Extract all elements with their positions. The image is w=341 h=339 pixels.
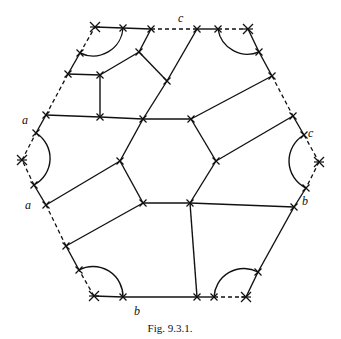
dashed-edge — [22, 160, 34, 185]
solid-edge — [191, 119, 216, 161]
solid-edge — [190, 203, 197, 297]
vertex-marker — [33, 130, 40, 137]
solid-edge — [190, 161, 216, 203]
solid-edge — [120, 161, 143, 203]
vertex-marker — [303, 185, 310, 192]
solid-edge — [248, 29, 259, 52]
label-c-right: c — [308, 126, 314, 140]
arc-top-right — [218, 29, 259, 54]
vertex-marker — [290, 113, 297, 120]
solid-edge — [36, 115, 46, 133]
corner-arcs — [34, 28, 306, 297]
corner-vertex-marker — [90, 22, 100, 32]
solid-edge — [46, 161, 120, 205]
arc-top-left — [80, 28, 123, 56]
vertex-marker — [164, 78, 171, 85]
dashed-edge — [46, 205, 66, 246]
vertex-marker — [301, 132, 308, 139]
vertex-marker — [269, 73, 276, 80]
corner-vertex-marker — [17, 155, 27, 165]
corner-vertex-marker — [243, 24, 253, 34]
vertex-marker — [31, 182, 38, 189]
label-a-upper: a — [22, 113, 28, 127]
solid-edge — [191, 76, 272, 119]
solid-edge — [100, 117, 143, 119]
solid-edge — [68, 53, 80, 74]
edge-labels: caacbb — [22, 11, 314, 318]
dashed-edge — [306, 162, 319, 188]
solid-edge — [66, 203, 143, 246]
arc-bottom-right — [214, 269, 258, 297]
dashed-edge — [80, 27, 95, 53]
solid-edge — [139, 52, 167, 81]
label-c-top: c — [178, 11, 184, 25]
solid-edge — [190, 203, 294, 207]
solid-edge — [216, 116, 293, 161]
solid-edge — [123, 28, 151, 29]
dashed-edge — [46, 74, 68, 115]
dashed-edge — [79, 270, 94, 296]
label-b-right: b — [302, 194, 308, 208]
vertex-marker — [63, 243, 70, 250]
vertex-marker — [136, 49, 143, 56]
vertex-marker — [255, 269, 262, 276]
label-a-lower: a — [25, 198, 31, 212]
solid-edge — [143, 81, 167, 119]
corner-vertex-marker — [89, 291, 99, 301]
dashed-edge — [22, 133, 36, 160]
solid-edge — [34, 185, 46, 205]
vertex-marker — [76, 267, 83, 274]
arc-left — [34, 133, 50, 185]
vertex-marker — [256, 49, 263, 56]
vertex-marker — [213, 158, 220, 165]
solid-edge — [139, 29, 151, 52]
solid-edge — [293, 116, 304, 135]
vertex-marker — [77, 50, 84, 57]
solid-edge — [246, 272, 258, 297]
solid-edge — [66, 246, 79, 270]
arc-right — [289, 135, 306, 188]
solid-edge — [259, 52, 272, 76]
solid-edge — [120, 119, 143, 161]
vertex-markers — [17, 22, 324, 302]
figure-caption: Fig. 9.3.1. — [148, 322, 193, 334]
graph-edges — [22, 27, 319, 297]
solid-edge — [167, 29, 197, 81]
corner-vertex-marker — [241, 292, 251, 302]
hexagon-tiling-diagram: caacbb Fig. 9.3.1. — [0, 0, 341, 339]
dashed-edge — [272, 76, 293, 116]
label-b-bottom: b — [134, 304, 140, 318]
solid-edge — [100, 52, 139, 75]
vertex-marker — [117, 158, 124, 165]
solid-edge — [68, 74, 100, 75]
solid-edge — [46, 115, 100, 117]
solid-edge — [258, 207, 294, 272]
vertex-marker — [43, 202, 50, 209]
corner-vertex-marker — [314, 157, 324, 167]
